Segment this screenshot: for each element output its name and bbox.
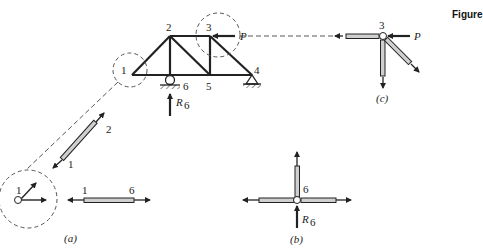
- panel-a-member12-end1: 1: [68, 158, 74, 170]
- panel-c-joint-3: [335, 33, 419, 89]
- panel-b-reaction-label: R: [301, 213, 309, 225]
- panel-b-joint-6: [243, 152, 351, 228]
- panel-a-member-1-6: [68, 198, 150, 203]
- node-label-1: 1: [121, 64, 127, 76]
- figure-label: Figure: [452, 9, 483, 20]
- callout-circle-joint-1: [113, 53, 147, 87]
- node-label-5: 5: [206, 80, 212, 92]
- reaction-label-r: R: [175, 96, 183, 108]
- roller-support-6: [160, 76, 180, 90]
- panel-a-member16-end1: 1: [82, 184, 88, 196]
- node-label-6: 6: [183, 80, 189, 92]
- panel-b-caption: (b): [290, 233, 303, 246]
- panel-a-joint-label: 1: [16, 184, 22, 196]
- load-label-p: P: [239, 30, 247, 42]
- panel-a-member12-end2: 2: [106, 123, 112, 135]
- truss-diagram: 1 2 3 4 5 6 P R 6 3 P (c) 2 1 1: [0, 0, 483, 252]
- reaction-label-sub: 6: [184, 99, 190, 111]
- panel-b-reaction-sub: 6: [310, 216, 316, 228]
- panel-b-joint-label: 6: [303, 183, 309, 195]
- pin-support-4: [243, 75, 261, 88]
- panel-c-load-label: P: [413, 30, 421, 42]
- panel-c-caption: (c): [376, 92, 389, 105]
- node-label-4: 4: [254, 64, 260, 76]
- node-label-2: 2: [166, 21, 172, 33]
- panel-a-member-1-2: [53, 113, 104, 168]
- node-label-3: 3: [206, 21, 212, 33]
- panel-a-member16-end6: 6: [129, 184, 135, 196]
- panel-a-caption: (a): [64, 232, 77, 245]
- main-truss: [132, 36, 252, 75]
- panel-a-joint-1: [0, 170, 57, 228]
- callout-leader-1: [26, 82, 118, 170]
- panel-c-joint-label: 3: [379, 19, 385, 31]
